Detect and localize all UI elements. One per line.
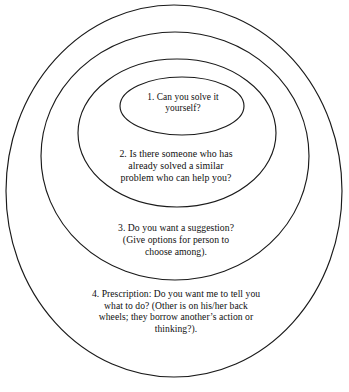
zone-label-solve-it-yourself: 1. Can you solve it yourself? bbox=[124, 92, 242, 115]
zone-label-offer-a-suggestion: 3. Do you want a suggestion? (Give optio… bbox=[84, 222, 268, 257]
ring-ellipse-level-2 bbox=[78, 59, 276, 207]
diagram-canvas: 1. Can you solve it yourself? 2. Is ther… bbox=[0, 0, 349, 392]
zone-label-prescription: 4. Prescription: Do you want me to tell … bbox=[54, 288, 298, 335]
zone-label-someone-who-has-solved-similar: 2. Is there someone who has already solv… bbox=[86, 148, 266, 184]
